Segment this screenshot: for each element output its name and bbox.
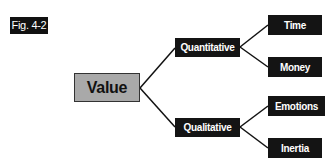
node-emotions: Emotions xyxy=(268,96,325,116)
node-inertia: Inertia xyxy=(268,138,322,158)
node-money: Money xyxy=(268,57,322,77)
node-value: Value xyxy=(74,73,140,102)
figure-label: Fig. 4-2 xyxy=(10,17,48,34)
node-qualitative: Qualitative xyxy=(175,118,240,137)
node-quantitative: Quantitative xyxy=(175,38,240,57)
node-time: Time xyxy=(268,15,322,35)
